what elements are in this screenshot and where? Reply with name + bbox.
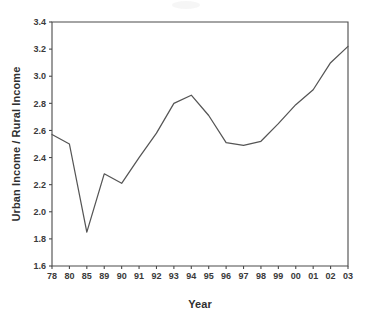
x-axis-tick-label: 90	[117, 271, 127, 281]
x-axis-title-label: Year	[188, 298, 212, 310]
x-axis-tick-label: 78	[47, 271, 57, 281]
x-axis-tick-label: 91	[134, 271, 144, 281]
y-axis-tick-label: 2.8	[33, 99, 46, 109]
x-axis-tick-label: 93	[169, 271, 179, 281]
x-axis-tick-label: 01	[308, 271, 318, 281]
y-axis-title: Urban Income / Rural Income	[10, 67, 22, 222]
x-axis-tick-label: 95	[204, 271, 214, 281]
x-axis-tick-label: 94	[186, 271, 196, 281]
scan-artifact	[172, 1, 200, 9]
x-axis-tick-label: 85	[82, 271, 92, 281]
y-axis-tick-label: 1.8	[33, 234, 46, 244]
x-axis-tick-label: 96	[221, 271, 231, 281]
x-axis-tick-label: 97	[239, 271, 249, 281]
line-chart: Urban Income / Rural Income 1.61.82.02.2…	[0, 0, 380, 322]
y-axis-tick-label: 3.0	[33, 71, 46, 81]
y-axis-tick-label: 3.2	[33, 44, 46, 54]
y-axis-tick-label: 1.6	[33, 261, 46, 271]
x-axis-tick-label: 02	[326, 271, 336, 281]
x-axis-title: Year	[188, 298, 212, 310]
y-axis-title-label: Urban Income / Rural Income	[10, 67, 22, 222]
y-axis-tick-label: 3.4	[33, 17, 46, 27]
y-axis-tick-label: 2.0	[33, 207, 46, 217]
y-axis-tick-label: 2.6	[33, 126, 46, 136]
x-axis-tick-label: 03	[343, 271, 353, 281]
y-axis-tick-label: 2.2	[33, 180, 46, 190]
y-axis-tick-label: 2.4	[33, 153, 46, 163]
x-axis-tick-label: 89	[99, 271, 109, 281]
x-axis-tick-label: 99	[273, 271, 283, 281]
x-axis-tick-label: 80	[64, 271, 74, 281]
x-axis-tick-label: 00	[291, 271, 301, 281]
x-axis-tick-label: 92	[151, 271, 161, 281]
x-axis-tick-label: 98	[256, 271, 266, 281]
